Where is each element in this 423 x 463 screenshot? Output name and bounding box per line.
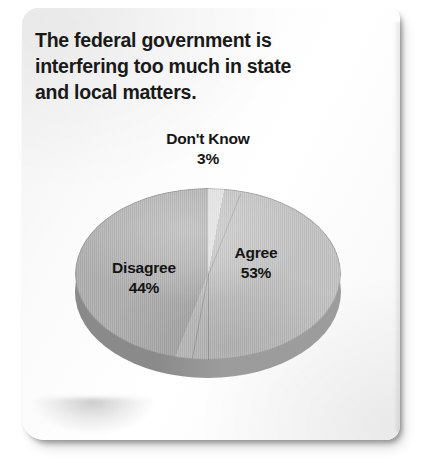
slice-label-dont-know-name: Don't Know (166, 130, 249, 147)
chart-title-line-2: interfering too much in state (35, 54, 345, 80)
slice-label-agree-value: 53% (208, 263, 304, 283)
slice-label-dont-know-value: 3% (128, 149, 288, 169)
slice-label-dont-know: Don't Know 3% (128, 129, 288, 169)
screenshot-root: The federal government is interfering to… (0, 0, 423, 463)
pie-slice-divider-dont-know-start (208, 274, 209, 360)
card-right-edge (394, 22, 403, 432)
chart-title-line-1: The federal government is (35, 28, 345, 54)
chart-title-line-3: and local matters. (35, 80, 345, 106)
slice-label-disagree-name: Disagree (112, 259, 176, 276)
slice-label-agree-name: Agree (235, 244, 278, 261)
chart-title: The federal government is interfering to… (35, 28, 345, 106)
slice-label-disagree-value: 44% (84, 278, 204, 298)
slice-label-agree: Agree 53% (208, 243, 304, 283)
slice-label-disagree: Disagree 44% (84, 258, 204, 298)
